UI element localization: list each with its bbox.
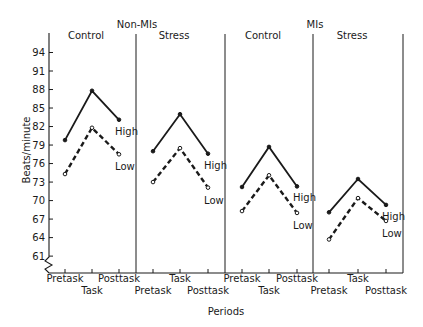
group-title-mis: MIs <box>307 19 324 30</box>
y-tick-label: 73 <box>32 177 45 188</box>
x-axis-labels: PretaskTaskPosttaskPretaskTaskPosttaskPr… <box>47 269 408 296</box>
y-tick-label: 94 <box>32 47 45 58</box>
data-point <box>327 211 331 215</box>
y-axis-ticks: 949188858279767370676461 <box>32 47 53 262</box>
axis-lines <box>45 33 403 273</box>
period-label-task: Task <box>168 273 191 284</box>
period-label-task: Task <box>257 285 280 296</box>
panel-mis-control: ControlHighLow <box>240 30 316 231</box>
series-line-low <box>242 175 297 213</box>
x-axis-title: Periods <box>208 306 244 317</box>
data-point <box>384 203 388 207</box>
series-label-low: Low <box>293 220 313 231</box>
period-label-pretask: Pretask <box>311 285 348 296</box>
panel-title: Control <box>68 30 104 41</box>
data-point <box>356 196 360 200</box>
period-label-pretask: Pretask <box>135 285 172 296</box>
series-label-low: Low <box>382 228 402 239</box>
data-point <box>151 180 155 184</box>
data-point <box>206 186 210 190</box>
period-label-task: Task <box>346 273 369 284</box>
data-point <box>178 112 182 116</box>
period-label-posttask: Posttask <box>187 285 229 296</box>
y-tick-label: 67 <box>32 214 45 225</box>
data-point <box>63 138 67 142</box>
series-label-high: High <box>204 160 227 171</box>
series-line-low <box>153 148 208 188</box>
data-point <box>117 153 121 157</box>
y-tick-label: 61 <box>32 251 45 262</box>
period-label-posttask: Posttask <box>365 285 407 296</box>
y-tick-label: 70 <box>32 195 45 206</box>
data-point <box>384 219 388 223</box>
panel-title: Stress <box>337 30 368 41</box>
group-title-non-mis: Non-MIs <box>117 19 157 30</box>
period-label-pretask: Pretask <box>224 273 261 284</box>
data-point <box>151 149 155 153</box>
panel-non-mis-control: ControlHighLow <box>63 30 138 176</box>
data-point <box>117 118 121 122</box>
series-line-high <box>65 91 119 140</box>
data-point <box>178 146 182 150</box>
series-line-low <box>329 198 386 239</box>
y-axis-title: Beats/minute <box>21 117 32 184</box>
data-point <box>295 211 299 215</box>
data-point <box>90 126 94 130</box>
series-line-high <box>329 179 386 212</box>
series-line-high <box>242 147 297 187</box>
data-point <box>90 89 94 93</box>
axes <box>45 33 403 273</box>
series-label-high: High <box>115 126 138 137</box>
y-tick-label: 76 <box>32 158 45 169</box>
heart-rate-chart: 949188858279767370676461 ControlHighLowS… <box>0 0 423 327</box>
period-label-pretask: Pretask <box>47 273 84 284</box>
panels: ControlHighLowStressHighLowControlHighLo… <box>63 30 405 241</box>
y-tick-label: 85 <box>32 103 45 114</box>
period-label-posttask: Posttask <box>276 273 318 284</box>
data-point <box>63 172 67 176</box>
panel-non-mis-stress: StressHighLow <box>151 30 227 206</box>
y-tick-label: 91 <box>32 66 45 77</box>
series-label-high: High <box>293 192 316 203</box>
y-tick-label: 82 <box>32 121 45 132</box>
period-label-posttask: Posttask <box>98 273 140 284</box>
period-label-task: Task <box>80 285 103 296</box>
data-point <box>267 145 271 149</box>
data-point <box>356 177 360 181</box>
data-point <box>240 185 244 189</box>
panel-title: Control <box>245 30 281 41</box>
series-label-low: Low <box>115 161 135 172</box>
y-tick-label: 64 <box>32 232 45 243</box>
data-point <box>267 173 271 177</box>
data-point <box>240 209 244 213</box>
data-point <box>295 185 299 189</box>
y-tick-label: 79 <box>32 140 45 151</box>
series-label-low: Low <box>204 195 224 206</box>
data-point <box>327 238 331 242</box>
series-line-low <box>65 128 119 174</box>
y-tick-label: 88 <box>32 84 45 95</box>
panel-title: Stress <box>159 30 190 41</box>
data-point <box>206 152 210 156</box>
panel-mis-stress: StressHighLow <box>327 30 405 241</box>
